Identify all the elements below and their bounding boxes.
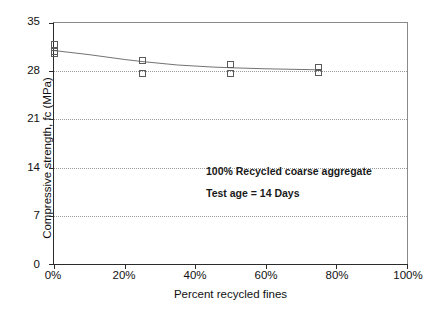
data-point-marker	[227, 61, 234, 68]
data-point-marker	[139, 70, 146, 77]
x-tick-label: 0%	[28, 269, 78, 281]
y-tick-label: 7	[0, 211, 40, 223]
y-tick-label: 28	[0, 65, 40, 77]
y-tick-label: 14	[0, 162, 40, 174]
plot-area: 100% Recycled coarse aggregate Test age …	[53, 22, 408, 265]
annotation-recycled-aggregate: 100% Recycled coarse aggregate	[206, 165, 372, 177]
data-point-marker	[51, 50, 58, 57]
x-tick-label: 80%	[312, 269, 362, 281]
chart-figure: 0 7 14 21 28 35 Compressive strength, fc…	[0, 0, 436, 315]
x-tick-label: 60%	[241, 269, 291, 281]
y-tick-label: 21	[0, 113, 40, 125]
data-point-marker	[227, 70, 234, 77]
x-tick-label: 100%	[383, 269, 433, 281]
y-tick-label: 35	[0, 16, 40, 28]
data-point-marker	[315, 69, 322, 76]
trend-line	[54, 23, 407, 264]
x-tick-label: 20%	[99, 269, 149, 281]
annotation-test-age: Test age = 14 Days	[206, 187, 300, 199]
x-axis-title: Percent recycled fines	[53, 288, 408, 300]
x-axis-tick-labels: 0% 20% 40% 60% 80% 100%	[53, 269, 408, 285]
x-tick-label: 40%	[170, 269, 220, 281]
data-point-marker	[139, 57, 146, 64]
y-axis-title: Compressive strength, fc (MPa)	[41, 43, 53, 273]
